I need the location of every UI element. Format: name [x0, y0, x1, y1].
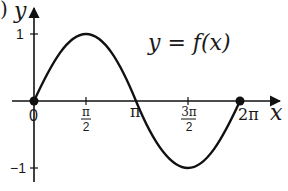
y-axis-label: y	[13, 0, 27, 23]
x-tick-label-0: 0	[29, 107, 38, 124]
sine-graph: ) y x 1 −1 0 π 2 π 3π 2 2π y = f(x)	[0, 0, 288, 191]
x-tick-label-3pi-over-2-num: 3π	[181, 105, 197, 119]
prefix-mark: )	[0, 0, 8, 21]
end-point-2pi	[236, 97, 245, 106]
x-axis-label: x	[270, 100, 283, 125]
function-label-text: y = f(x)	[147, 30, 231, 55]
origin-point	[30, 97, 39, 106]
x-tick-label-pi: π	[130, 102, 141, 121]
y-tick-label-neg1: −1	[10, 160, 26, 176]
x-tick-label-3pi-over-2-den: 2	[186, 120, 193, 134]
x-tick-label-2pi: 2π	[238, 105, 259, 124]
function-label: y = f(x)	[147, 30, 231, 55]
x-tick-label-pi-over-2-den: 2	[83, 120, 90, 134]
y-tick-label-1: 1	[16, 26, 24, 42]
x-tick-label-pi-over-2-num: π	[82, 105, 90, 119]
